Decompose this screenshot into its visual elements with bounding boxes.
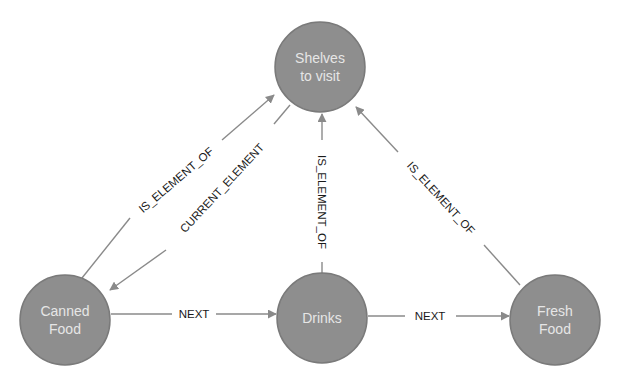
node-shelves-to-visit[interactable]: Shelves to visit [275,22,365,112]
node-canned-food[interactable]: Canned Food [20,275,110,365]
edge-fresh-is-element-of-shelves[interactable]: IS_ELEMENT_OF [356,107,520,285]
node-drinks[interactable]: Drinks [277,273,367,363]
node-label-line-1: Shelves [295,50,345,66]
node-label-line-1: Fresh [537,303,573,319]
edge-drinks-is-element-of-shelves[interactable]: IS_ELEMENT_OF [316,114,328,273]
node-label-line-1: Drinks [302,310,342,326]
edge-label: IS_ELEMENT_OF [405,159,477,236]
edge-shelves-current-element-canned[interactable]: CURRENT_ELEMENT [110,105,290,290]
edge-label: CURRENT_ELEMENT [178,141,267,235]
edge-drinks-next-fresh[interactable]: NEXT [368,310,509,322]
edge-canned-next-drinks[interactable]: NEXT [111,308,276,320]
edge-label: NEXT [415,310,446,322]
node-label-line-2: Food [539,321,571,337]
node-label-line-1: Canned [40,303,89,319]
graph-canvas: IS_ELEMENT_OF CURRENT_ELEMENT IS_ELEMENT… [0,0,627,388]
edge-label: IS_ELEMENT_OF [316,155,328,249]
edge-canned-is-element-of-shelves[interactable]: IS_ELEMENT_OF [82,95,274,278]
edge-label: NEXT [179,308,210,320]
node-label-line-2: to visit [300,68,340,84]
node-fresh-food[interactable]: Fresh Food [510,275,600,365]
node-label-line-2: Food [49,321,81,337]
